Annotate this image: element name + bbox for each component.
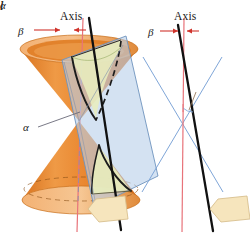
axis-label-left: Axis [60,11,83,23]
figure-canvas [0,0,250,239]
beta-label-right: β [148,27,153,38]
conic-section-figure: Axis β α l Axis β α l [0,0,250,239]
axis-label-right: Axis [174,11,197,23]
callout-l-right [210,196,250,222]
line-label-l-right: l [0,0,3,12]
left-panel-group [20,18,158,232]
beta-arrows-left [34,28,86,33]
alpha-label-left: α [23,122,29,133]
beta-label-left: β [18,26,23,37]
alpha-leader-left [38,112,80,127]
right-panel-group [142,18,250,232]
